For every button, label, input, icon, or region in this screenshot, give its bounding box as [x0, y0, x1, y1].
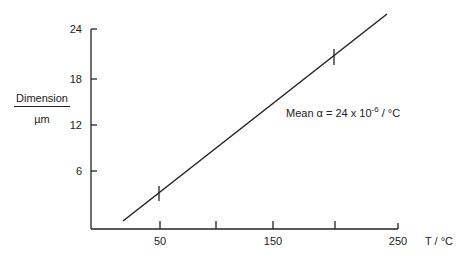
y-label-numerator: Dimension: [14, 92, 70, 107]
x-axis-label: T / °C: [425, 235, 453, 247]
y-tick-12: 12: [52, 119, 82, 131]
x-tick-250: 250: [383, 235, 413, 247]
x-tick-150: 150: [258, 235, 288, 247]
y-tick-18: 18: [52, 73, 82, 85]
y-tick-6: 6: [52, 165, 82, 177]
x-tick-50: 50: [145, 235, 175, 247]
annotation-text: Mean α = 24 x 10: [286, 107, 372, 119]
y-tick-24: 24: [52, 23, 82, 35]
annotation-exponent: -6: [372, 105, 379, 114]
annotation-mean-alpha: Mean α = 24 x 10-6 / °C: [286, 105, 400, 119]
annotation-unit: / °C: [379, 107, 401, 119]
